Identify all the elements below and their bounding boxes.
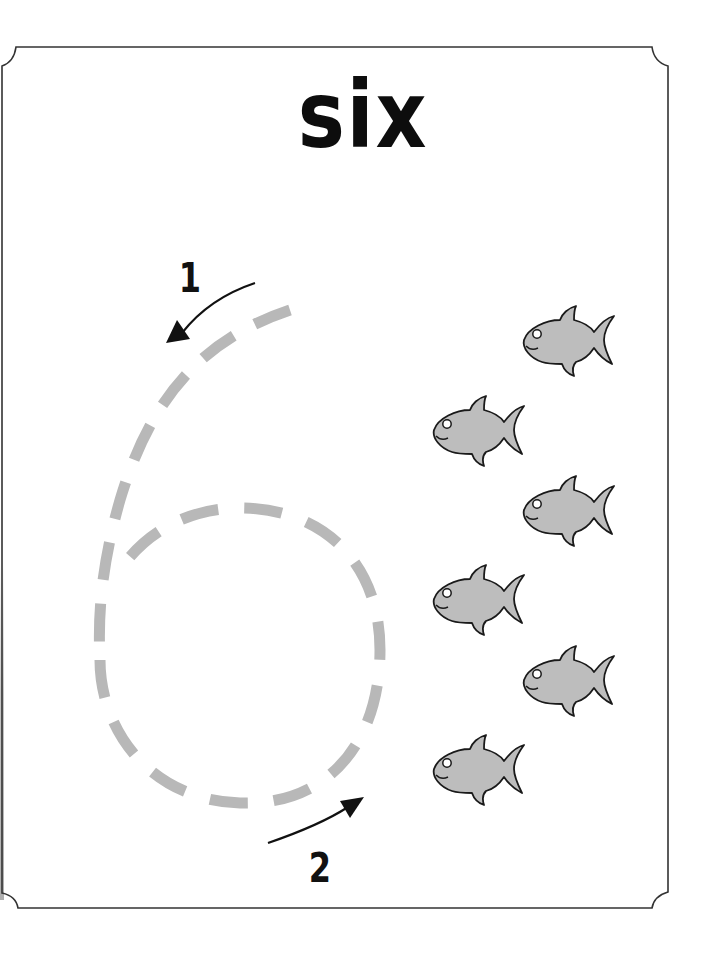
- fish-3-icon: [518, 468, 618, 548]
- fish-5-icon: [518, 638, 618, 718]
- trace-stroke-2: [100, 508, 380, 803]
- step-1-label: 1: [179, 258, 201, 298]
- step-2-label: 2: [309, 848, 331, 888]
- fish-6-icon: [428, 727, 528, 807]
- worksheet-page: six 1 2: [0, 0, 726, 960]
- trace-stroke-1: [99, 310, 290, 660]
- fish-4-icon: [428, 557, 528, 637]
- fish-2-icon: [428, 388, 528, 468]
- fish-1-icon: [518, 298, 618, 378]
